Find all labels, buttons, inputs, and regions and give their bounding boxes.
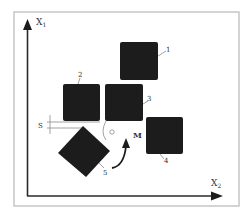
label-1: 1 — [166, 46, 170, 54]
block-2 — [63, 84, 100, 121]
dimension-label: S — [38, 122, 43, 130]
label-3: 3 — [147, 95, 151, 103]
label-5: 5 — [103, 169, 107, 177]
diagram-figure: X1 X2 1 2 3 4 S 5 M — [0, 0, 252, 217]
block-1 — [120, 42, 158, 80]
label-4: 4 — [164, 157, 169, 165]
block-3 — [105, 84, 143, 121]
label-2: 2 — [78, 71, 82, 79]
moment-label: M — [133, 130, 142, 140]
block-4 — [146, 117, 183, 154]
